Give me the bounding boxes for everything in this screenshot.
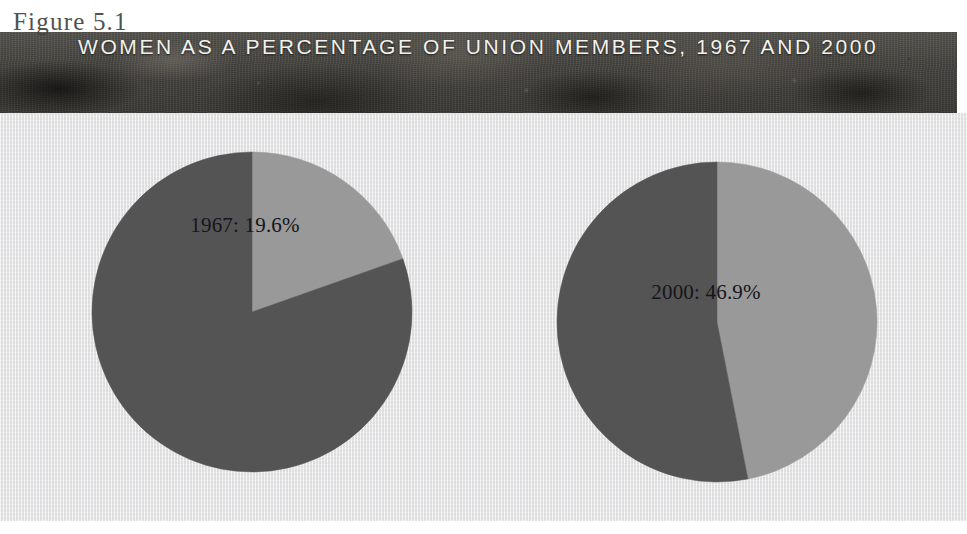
figure-title: WOMEN AS A PERCENTAGE OF UNION MEMBERS, … [78, 35, 878, 59]
pie-slice-women [717, 162, 877, 479]
pie-chart-1967: 1967: 19.6% [87, 147, 417, 477]
panel-footer-margin [0, 521, 967, 534]
figure-caption: Figure 5.1 [13, 8, 128, 36]
pie-2000-svg [552, 157, 882, 487]
title-banner: WOMEN AS A PERCENTAGE OF UNION MEMBERS, … [0, 32, 957, 113]
pie-chart-2000: 2000: 46.9% [552, 157, 882, 487]
chart-panel: 1967: 19.6% 2000: 46.9% [0, 113, 967, 521]
pie-2000-label: 2000: 46.9% [651, 280, 761, 305]
pie-1967-label: 1967: 19.6% [190, 213, 300, 238]
figure-page: Figure 5.1 WOMEN AS A PERCENTAGE OF UNIO… [0, 0, 967, 534]
pie-1967-svg [87, 147, 417, 477]
